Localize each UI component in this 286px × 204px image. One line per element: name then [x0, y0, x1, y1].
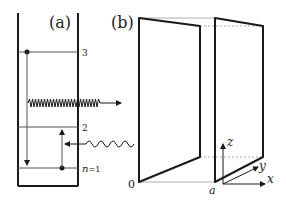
level-2-label: 2 [82, 123, 88, 133]
panel-a: (a) 3 2 n=1 [18, 13, 134, 186]
panel-b-label: (b) [111, 13, 134, 32]
absorbed-photon-wave [86, 141, 134, 147]
panel-b: (b) 0 a z y x [111, 13, 274, 197]
level-1-label: n=1 [82, 163, 100, 174]
y-axis-label: y [258, 159, 266, 173]
level-3-label: 3 [82, 48, 88, 58]
separation-label: a [209, 184, 216, 197]
plate-2 [215, 18, 263, 182]
z-axis-label: z [226, 135, 234, 149]
x-axis-label: x [267, 172, 274, 186]
diagram-canvas: (a) 3 2 n=1 (b) [0, 0, 286, 204]
emitted-photon-wave [28, 99, 100, 107]
origin-label: 0 [128, 178, 135, 191]
panel-a-label: (a) [49, 13, 71, 32]
plate-1 [139, 18, 200, 182]
